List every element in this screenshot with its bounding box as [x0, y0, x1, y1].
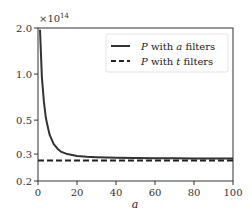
x-tick-label: 0: [35, 187, 41, 198]
x-tick-label: 80: [188, 187, 201, 198]
legend-label-t-filters: P with t filters: [140, 56, 213, 67]
legend-label-a-filters: P with a filters: [140, 41, 215, 52]
x-axis: 020406080100: [35, 181, 243, 198]
x-tick-label: 100: [223, 187, 242, 198]
y-tick-label: 0.2: [16, 176, 32, 187]
x-tick-label: 20: [71, 187, 84, 198]
legend: P with a filters P with t filters: [106, 34, 228, 72]
y-tick-label: 1.0: [16, 69, 32, 80]
y-tick-label: 2.0: [16, 23, 32, 34]
chart: ×1014 020406080100 0.20.30.51.02.0 a P w…: [0, 0, 252, 217]
y-multiplier-label: ×1014: [39, 12, 70, 24]
y-tick-label: 0.3: [16, 149, 32, 160]
x-tick-label: 40: [110, 187, 123, 198]
x-tick-label: 60: [149, 187, 162, 198]
y-axis: 0.20.30.51.02.0: [16, 23, 38, 187]
y-tick-label: 0.5: [16, 115, 32, 126]
x-axis-label: a: [132, 198, 139, 211]
